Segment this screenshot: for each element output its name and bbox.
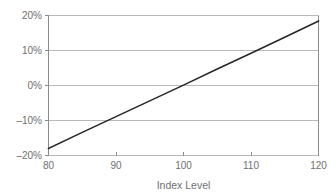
y-tick-label-20pct: 20% xyxy=(22,10,42,21)
y-tick-label-0pct: 0% xyxy=(28,80,43,91)
x-tick-label-90: 90 xyxy=(110,160,122,171)
x-tick-label-120: 120 xyxy=(310,160,327,171)
y-tick-labels: 20% 10% 0% –10% –20% xyxy=(16,10,42,161)
line-chart: 20% 10% 0% –10% –20% 80 90 100 110 120 I… xyxy=(0,0,336,195)
x-tick-label-110: 110 xyxy=(243,160,259,171)
x-tick-label-80: 80 xyxy=(43,160,55,171)
chart-container: 20% 10% 0% –10% –20% 80 90 100 110 120 I… xyxy=(0,0,336,195)
y-tickmarks xyxy=(45,16,49,156)
x-tick-label-100: 100 xyxy=(175,160,192,171)
x-axis-title: Index Level xyxy=(157,179,211,191)
y-tick-label-neg20pct: –20% xyxy=(16,150,42,161)
y-tick-label-10pct: 10% xyxy=(22,45,42,56)
y-tick-label-neg10pct: –10% xyxy=(16,115,42,126)
x-tick-labels: 80 90 100 110 120 xyxy=(43,160,327,171)
